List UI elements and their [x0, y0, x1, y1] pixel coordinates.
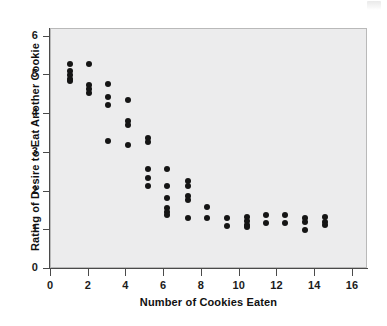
data-point — [204, 204, 210, 210]
data-point — [224, 215, 230, 221]
x-tick-mark — [50, 269, 51, 276]
data-point — [185, 197, 191, 203]
x-tick-mark — [314, 269, 315, 276]
data-point — [145, 139, 151, 145]
x-axis-line — [49, 268, 368, 269]
data-point — [125, 142, 131, 148]
data-point — [145, 166, 151, 172]
y-tick-mark — [43, 268, 50, 269]
x-tick-mark — [125, 269, 126, 276]
data-point — [263, 220, 269, 226]
scatter-plot-figure: 0123456 0246810121416 Number of Cookies … — [0, 0, 387, 326]
data-point — [145, 183, 151, 189]
data-point — [164, 195, 170, 201]
scan-artifact — [367, 1, 381, 10]
data-point — [67, 61, 73, 67]
x-tick-mark — [239, 269, 240, 276]
data-point — [145, 175, 151, 181]
data-point — [302, 219, 308, 225]
y-tick-mark — [43, 113, 50, 114]
x-tick-mark — [201, 269, 202, 276]
x-tick-mark — [352, 269, 353, 276]
plot-area — [50, 28, 367, 268]
x-tick-label: 14 — [302, 279, 326, 291]
data-point — [125, 122, 131, 128]
data-point — [322, 222, 328, 228]
data-point — [185, 183, 191, 189]
y-tick-mark — [43, 191, 50, 192]
x-tick-label: 10 — [227, 279, 251, 291]
data-point — [204, 215, 210, 221]
x-tick-mark — [88, 269, 89, 276]
x-axis-title: Number of Cookies Eaten — [50, 296, 367, 308]
x-tick-label: 8 — [189, 279, 213, 291]
x-tick-label: 16 — [340, 279, 364, 291]
x-tick-mark — [276, 269, 277, 276]
data-point — [244, 224, 250, 230]
data-point — [263, 212, 269, 218]
y-tick-mark — [43, 74, 50, 75]
x-tick-label: 0 — [38, 279, 62, 291]
x-tick-label: 4 — [113, 279, 137, 291]
x-tick-label: 6 — [151, 279, 175, 291]
y-axis-line — [49, 28, 50, 269]
y-tick-mark — [43, 152, 50, 153]
y-axis-title: Rating of Desire to Eat Another Cookie — [29, 17, 41, 277]
y-tick-mark — [43, 229, 50, 230]
data-point — [185, 215, 191, 221]
x-tick-label: 2 — [76, 279, 100, 291]
x-tick-mark — [163, 269, 164, 276]
y-tick-mark — [43, 36, 50, 37]
x-tick-label: 12 — [264, 279, 288, 291]
